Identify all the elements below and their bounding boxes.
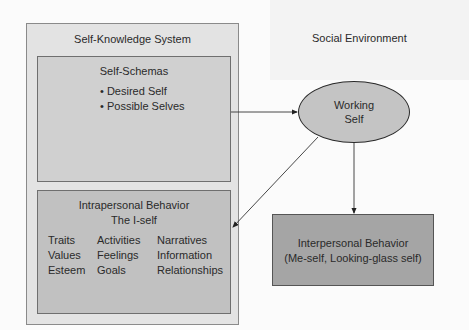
connector-arrows [0,0,469,330]
arrow-working-self-to-intrapersonal [233,137,318,227]
